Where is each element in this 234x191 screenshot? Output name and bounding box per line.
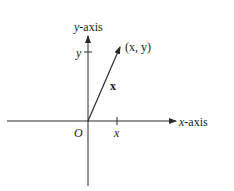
y-axis-label: y-axis bbox=[74, 21, 103, 33]
x-tick-label: x bbox=[114, 127, 119, 139]
vector-label: x bbox=[110, 80, 116, 92]
origin-label: O bbox=[74, 127, 83, 139]
point-label: (x, y) bbox=[125, 41, 151, 53]
y-tick-label: y bbox=[76, 47, 81, 59]
axes-graphic bbox=[0, 0, 234, 191]
x-axis-label: x-axis bbox=[179, 116, 208, 128]
vector-diagram: y-axis y (x, y) x O x x-axis bbox=[0, 0, 234, 191]
